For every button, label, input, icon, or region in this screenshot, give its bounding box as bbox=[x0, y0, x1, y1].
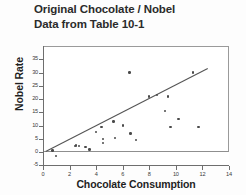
y-tick-mark bbox=[39, 73, 43, 74]
y-tick-mark bbox=[39, 152, 43, 153]
x-tick-label: 4 bbox=[88, 171, 104, 177]
x-axis-title: Chocolate Consumption bbox=[43, 178, 229, 190]
x-tick-mark bbox=[70, 166, 71, 170]
y-tick-label-text: 0 bbox=[20, 148, 38, 154]
x-tick-mark bbox=[149, 166, 150, 170]
x-tick-mark bbox=[176, 166, 177, 170]
x-tick-label: 2 bbox=[62, 171, 78, 177]
y-tick-label: 0 bbox=[20, 152, 38, 153]
y-tick-mark bbox=[39, 86, 43, 87]
x-tick-label: 8 bbox=[141, 171, 157, 177]
x-tick-mark bbox=[229, 166, 230, 170]
x-tick-label: 0 bbox=[35, 171, 51, 177]
x-tick-label: 10 bbox=[168, 171, 184, 177]
y-tick-mark bbox=[39, 99, 43, 100]
title-line-1: Original Chocolate / Nobel bbox=[34, 2, 234, 17]
y-tick-label-text: 5 bbox=[20, 135, 38, 141]
x-tick-mark bbox=[96, 166, 97, 170]
y-tick-mark bbox=[39, 139, 43, 140]
x-tick-mark bbox=[123, 166, 124, 170]
y-tick-mark bbox=[39, 126, 43, 127]
x-tick-mark bbox=[43, 166, 44, 170]
page-title: Original Chocolate / Nobel Data from Tab… bbox=[34, 2, 234, 32]
y-tick-label: -5 bbox=[20, 165, 38, 166]
title-line-2: Data from Table 10-1 bbox=[34, 17, 234, 32]
y-axis-title: Nobel Rate bbox=[13, 39, 25, 129]
y-tick-mark bbox=[39, 112, 43, 113]
x-tick-label: 14 bbox=[221, 171, 237, 177]
plot-frame bbox=[43, 46, 229, 152]
y-tick-label-text: -5 bbox=[20, 161, 38, 167]
x-tick-mark bbox=[202, 166, 203, 170]
x-tick-label: 12 bbox=[194, 171, 210, 177]
y-axis-line bbox=[43, 46, 44, 166]
x-axis-line bbox=[43, 165, 229, 166]
plot-area-below-zero bbox=[43, 152, 229, 166]
y-tick-mark bbox=[39, 59, 43, 60]
chart-screenshot: Original Chocolate / Nobel Data from Tab… bbox=[0, 0, 246, 195]
x-tick-label: 6 bbox=[115, 171, 131, 177]
y-tick-label: 5 bbox=[20, 139, 38, 140]
